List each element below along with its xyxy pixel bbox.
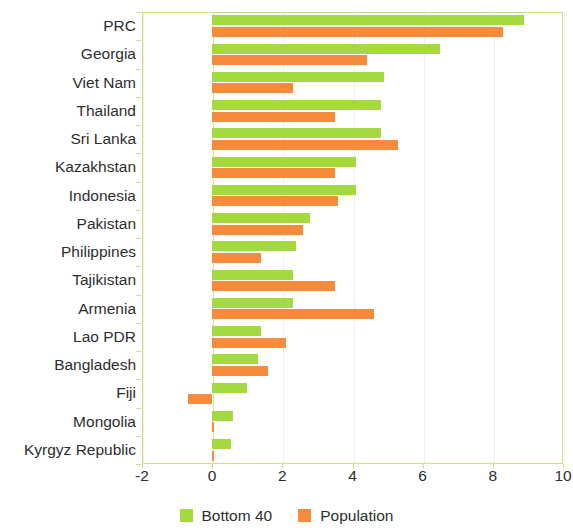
gridline-x-4 — [354, 13, 355, 463]
gridline-x-8 — [494, 13, 495, 463]
gridline-x--2 — [143, 13, 144, 463]
gridline-x-2 — [283, 13, 284, 463]
legend-item[interactable]: Bottom 40 — [180, 508, 273, 524]
category-label: Thailand — [0, 103, 136, 119]
y-axis-tick — [136, 40, 141, 41]
plot-area — [142, 12, 563, 464]
category-label: Georgia — [0, 46, 136, 62]
x-axis-tick-label: 10 — [554, 468, 571, 484]
category-label: Pakistan — [0, 216, 136, 232]
category-label: Philippines — [0, 244, 136, 260]
x-axis-tick-label: 8 — [489, 468, 498, 484]
y-axis-tick — [136, 153, 141, 154]
y-axis-tick — [136, 351, 141, 352]
legend-swatch-icon — [180, 509, 193, 522]
y-axis-tick — [136, 125, 141, 126]
x-axis-tick-label: -2 — [135, 468, 149, 484]
category-label: PRC — [0, 18, 136, 34]
y-axis-tick — [136, 436, 141, 437]
y-axis-tick — [136, 323, 141, 324]
x-axis-tick-label: 0 — [208, 468, 217, 484]
category-label: Viet Nam — [0, 75, 136, 91]
x-axis-tick-label: 4 — [348, 468, 357, 484]
y-axis-tick — [136, 69, 141, 70]
x-axis-tick-label: 2 — [278, 468, 287, 484]
y-axis-category-labels: PRCGeorgiaViet NamThailandSri LankaKazak… — [0, 12, 136, 464]
y-axis-tick — [136, 408, 141, 409]
legend-label: Population — [320, 508, 393, 524]
y-axis-tick — [136, 295, 141, 296]
legend-label: Bottom 40 — [202, 508, 273, 524]
chart-legend: Bottom 40Population — [0, 503, 573, 528]
category-label: Kyrgyz Republic — [0, 442, 136, 458]
category-label: Indonesia — [0, 188, 136, 204]
category-label: Kazakhstan — [0, 159, 136, 175]
y-axis-tick — [136, 464, 141, 465]
category-label: Armenia — [0, 301, 136, 317]
category-label: Sri Lanka — [0, 131, 136, 147]
y-axis-tick — [136, 238, 141, 239]
category-label: Lao PDR — [0, 329, 136, 345]
y-axis-tick — [136, 12, 141, 13]
y-axis-tick — [136, 182, 141, 183]
legend-item[interactable]: Population — [298, 508, 393, 524]
category-label: Tajikistan — [0, 272, 136, 288]
y-axis-tick — [136, 379, 141, 380]
gridline-x-6 — [424, 13, 425, 463]
x-axis-tick-label: 6 — [418, 468, 427, 484]
y-axis-tick — [136, 97, 141, 98]
category-label: Fiji — [0, 385, 136, 401]
y-axis-tick — [136, 210, 141, 211]
zero-axis-line — [213, 13, 214, 463]
category-label: Mongolia — [0, 414, 136, 430]
legend-swatch-icon — [298, 509, 311, 522]
bar-chart: PRCGeorgiaViet NamThailandSri LankaKazak… — [0, 0, 573, 528]
gridline-x-10 — [564, 13, 565, 463]
y-axis-tick — [136, 266, 141, 267]
category-label: Bangladesh — [0, 357, 136, 373]
